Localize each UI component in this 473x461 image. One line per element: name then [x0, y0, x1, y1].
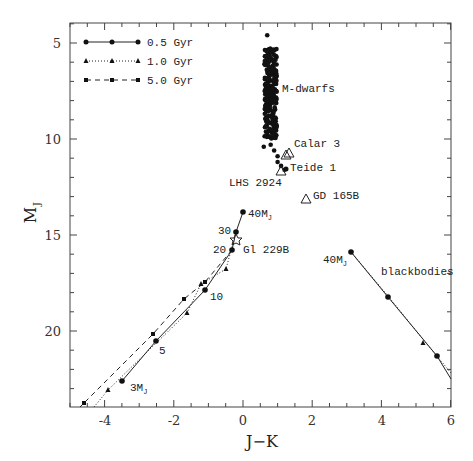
- 40mj-label: 40MJ: [248, 208, 272, 222]
- x-tick-label: 2: [308, 413, 316, 428]
- 40mj-blackbody-label: 40MJ: [323, 254, 347, 268]
- y-tick-label: 5: [53, 36, 61, 51]
- gl229b-star: [230, 234, 242, 245]
- x-tick-label: -4: [99, 413, 112, 428]
- gd165b-marker: [301, 194, 311, 203]
- legend: 0.5 Gyr 1.0 Gyr 5.0 Gyr: [84, 37, 194, 87]
- x-tick-label: 4: [378, 413, 386, 428]
- x-tick-label: 0: [239, 413, 247, 428]
- blackbodies-label: blackbodies: [381, 266, 454, 278]
- track-0.5gyr: [122, 212, 243, 381]
- track-5.0gyr: [80, 250, 232, 407]
- legend-label: 1.0 Gyr: [147, 56, 193, 68]
- 30mj-label: 30: [218, 225, 231, 237]
- y-axis-label: M J: [21, 202, 42, 223]
- calar3-marker-2: [281, 150, 291, 159]
- chart-svg: -4 -2 0 2 4 6 5 10 15 20 J−K M J 0.5 Gyr…: [0, 0, 473, 461]
- lhs2924-label: LHS 2924: [229, 177, 282, 189]
- track-markers: [82, 209, 440, 405]
- x-axis-label: J−K: [244, 432, 279, 451]
- m-dwarf-points: [261, 33, 286, 172]
- gd165b-label: GD 165B: [313, 190, 360, 202]
- chart-figure: -4 -2 0 2 4 6 5 10 15 20 J−K M J 0.5 Gyr…: [0, 0, 473, 461]
- legend-label: 5.0 Gyr: [147, 75, 193, 87]
- annotations: M-dwarfs Calar 3 Teide 1 LHS 2924 GD 165…: [130, 83, 454, 396]
- x-tick-label: -2: [168, 413, 181, 428]
- gl229b-label: Gl 229B: [243, 244, 290, 256]
- 5mj-label: 5: [159, 345, 166, 357]
- 3mj-label: 3MJ: [130, 382, 147, 396]
- m-dwarfs-label: M-dwarfs: [282, 83, 335, 95]
- y-tick-label: 10: [44, 132, 61, 147]
- lhs2924-marker: [284, 167, 289, 172]
- legend-label: 0.5 Gyr: [147, 37, 193, 49]
- y-axis-label-sub: J: [31, 202, 42, 207]
- teide1-label: Teide 1: [290, 162, 337, 174]
- model-tracks: [80, 212, 451, 407]
- 10mj-label: 10: [210, 291, 223, 303]
- 20mj-label: 20: [213, 244, 226, 256]
- x-tick-labels: -4 -2 0 2 4 6: [99, 413, 455, 428]
- y-axis-label-main: M: [21, 207, 40, 223]
- y-tick-label: 15: [44, 228, 61, 243]
- y-tick-labels: 5 10 15 20: [44, 36, 61, 339]
- calar3-label: Calar 3: [294, 138, 340, 150]
- x-tick-label: 6: [447, 413, 455, 428]
- y-tick-label: 20: [44, 324, 61, 339]
- track-1.0gyr: [94, 232, 236, 407]
